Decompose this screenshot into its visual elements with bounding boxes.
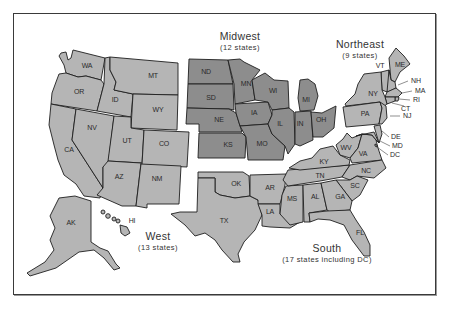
label-ct: CT bbox=[401, 105, 411, 112]
label-nd: ND bbox=[201, 68, 211, 75]
state-ny[interactable] bbox=[345, 72, 387, 107]
label-mi: MI bbox=[302, 96, 310, 103]
label-hi: HI bbox=[129, 217, 136, 224]
label-ut: UT bbox=[123, 137, 133, 144]
region-title-west: West (13 states) bbox=[128, 230, 188, 252]
label-or: OR bbox=[74, 88, 84, 95]
label-ia: IA bbox=[251, 109, 258, 116]
label-wv: WV bbox=[341, 144, 352, 151]
label-ks: KS bbox=[224, 141, 233, 148]
label-ca: CA bbox=[64, 146, 74, 153]
region-count: (17 states including DC) bbox=[262, 255, 392, 264]
label-ms: MS bbox=[287, 195, 298, 202]
state-hi[interactable] bbox=[101, 210, 130, 236]
label-va: VA bbox=[359, 150, 368, 157]
label-la: LA bbox=[266, 208, 275, 215]
label-nh: NH bbox=[411, 77, 421, 84]
label-az: AZ bbox=[115, 173, 124, 180]
label-md: MD bbox=[392, 142, 403, 149]
label-nc: NC bbox=[361, 167, 371, 174]
label-oh: OH bbox=[316, 116, 326, 123]
label-id: ID bbox=[112, 96, 119, 103]
label-me: ME bbox=[395, 61, 406, 68]
label-pa: PA bbox=[361, 110, 370, 117]
label-vt: VT bbox=[376, 62, 385, 69]
state-ks[interactable] bbox=[198, 133, 246, 158]
label-ga: GA bbox=[335, 193, 345, 200]
label-tx: TX bbox=[220, 217, 229, 224]
state-nm[interactable] bbox=[136, 164, 181, 208]
region-title-northeast: Northeast (9 states) bbox=[325, 38, 395, 60]
region-title-south: South (17 states including DC) bbox=[262, 242, 392, 264]
label-mt: MT bbox=[148, 72, 159, 79]
label-dc: DC bbox=[390, 151, 400, 158]
label-ri: RI bbox=[413, 96, 420, 103]
state-mt[interactable] bbox=[110, 57, 178, 95]
state-ak[interactable] bbox=[27, 196, 120, 276]
region-count: (12 states) bbox=[210, 43, 270, 52]
label-ma: MA bbox=[415, 87, 426, 94]
label-mo: MO bbox=[257, 140, 269, 147]
region-count: (9 states) bbox=[325, 51, 395, 60]
label-wa: WA bbox=[82, 62, 93, 69]
state-ri[interactable] bbox=[395, 97, 399, 101]
label-tn: TN bbox=[316, 172, 325, 179]
label-nm: NM bbox=[152, 175, 163, 182]
region-name: Midwest bbox=[210, 30, 270, 42]
label-sc: SC bbox=[350, 182, 359, 189]
region-title-midwest: Midwest (12 states) bbox=[210, 30, 270, 52]
state-az[interactable] bbox=[97, 161, 141, 206]
label-al: AL bbox=[311, 193, 319, 200]
label-wi: WI bbox=[269, 87, 277, 94]
label-il: IL bbox=[277, 120, 283, 127]
state-in[interactable] bbox=[295, 111, 313, 146]
label-in: IN bbox=[297, 120, 304, 127]
state-co[interactable] bbox=[142, 130, 189, 167]
label-co: CO bbox=[159, 140, 170, 147]
region-name: Northeast bbox=[325, 38, 395, 50]
label-fl: FL bbox=[356, 229, 364, 236]
label-mn: MN bbox=[241, 80, 252, 87]
label-wy: WY bbox=[153, 106, 164, 113]
region-count: (13 states) bbox=[128, 243, 188, 252]
state-dc[interactable] bbox=[375, 144, 377, 147]
label-ar: AR bbox=[265, 184, 274, 191]
label-ky: KY bbox=[320, 158, 329, 165]
region-name: West bbox=[128, 230, 188, 242]
label-de: DE bbox=[391, 133, 401, 140]
label-nv: NV bbox=[87, 124, 97, 131]
label-ok: OK bbox=[231, 180, 241, 187]
label-sd: SD bbox=[206, 94, 215, 101]
label-ak: AK bbox=[67, 219, 76, 226]
label-ne: NE bbox=[214, 116, 224, 123]
label-ny: NY bbox=[368, 90, 378, 97]
region-name: South bbox=[262, 242, 392, 254]
label-nj: NJ bbox=[403, 112, 412, 119]
